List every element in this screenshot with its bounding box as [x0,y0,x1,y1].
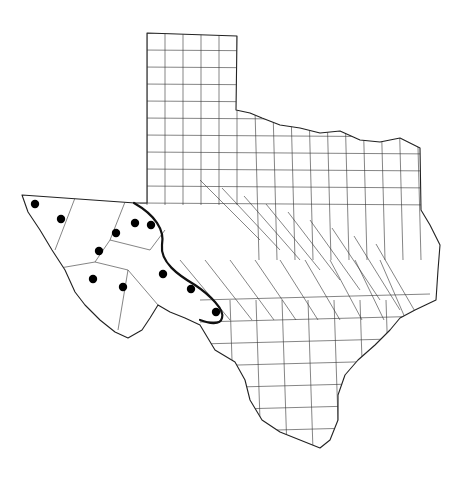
occurrence-dot [147,221,155,229]
occurrence-dot [187,285,195,293]
occurrence-dot [131,219,139,227]
occurrence-dot [159,270,167,278]
occurrence-dot [212,308,220,316]
occurrence-dot [57,215,65,223]
occurrence-dot [31,200,39,208]
state-outline [22,33,440,448]
occurrence-dot [112,229,120,237]
occurrence-dot [95,247,103,255]
occurrence-dot [119,283,127,291]
texas-county-map [0,0,464,482]
occurrence-dot [89,275,97,283]
